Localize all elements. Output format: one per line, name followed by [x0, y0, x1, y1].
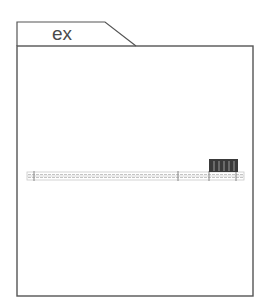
- highlight-block: [209, 159, 238, 172]
- progress-bar: [27, 171, 244, 181]
- frame-diagram: [0, 0, 267, 306]
- tab-label: ex: [52, 23, 82, 45]
